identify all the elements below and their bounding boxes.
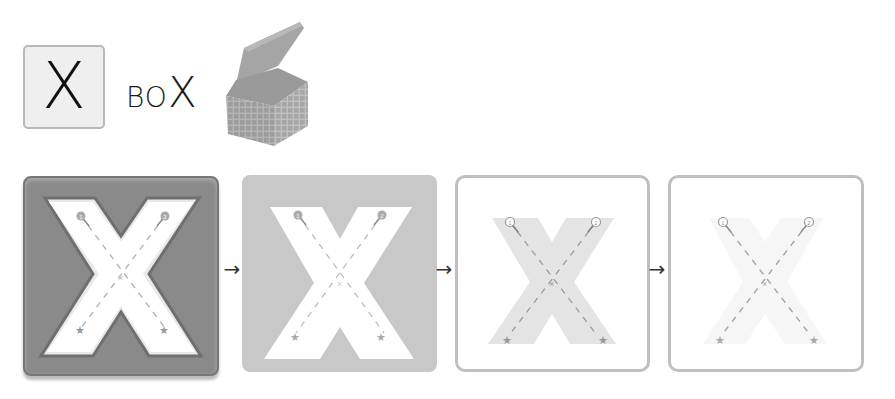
word-prefix: BO <box>126 84 168 112</box>
svg-text:★: ★ <box>376 331 386 343</box>
svg-text:★: ★ <box>715 334 725 346</box>
letter-card-glyph: X <box>42 54 86 118</box>
arrow-right-icon: → <box>433 258 455 280</box>
step-4-faint-letter: 1 2 ★ ★ × <box>668 175 864 372</box>
arrow-right-icon: → <box>221 258 243 280</box>
svg-text:★: ★ <box>290 331 300 343</box>
svg-text:×: × <box>762 279 767 289</box>
box-illustration-icon <box>222 18 312 146</box>
svg-text:★: ★ <box>502 334 512 346</box>
svg-text:×: × <box>337 279 342 289</box>
svg-text:★: ★ <box>159 324 169 336</box>
svg-text:★: ★ <box>75 324 85 336</box>
arrow-right-icon: → <box>646 258 668 280</box>
svg-text:×: × <box>549 279 554 289</box>
word-highlight-letter: X <box>168 72 197 114</box>
step-2-flat-tile: 1 2 ★ ★ × <box>242 175 437 372</box>
svg-text:×: × <box>118 273 123 283</box>
step-1-embossed-tile: 1 2 ★ ★ × <box>23 176 219 376</box>
example-word: BO X <box>126 72 197 112</box>
letter-card: X <box>23 45 105 129</box>
step-3-light-letter: 1 2 ★ ★ × <box>455 175 650 372</box>
svg-text:★: ★ <box>598 334 608 346</box>
svg-text:★: ★ <box>809 334 819 346</box>
